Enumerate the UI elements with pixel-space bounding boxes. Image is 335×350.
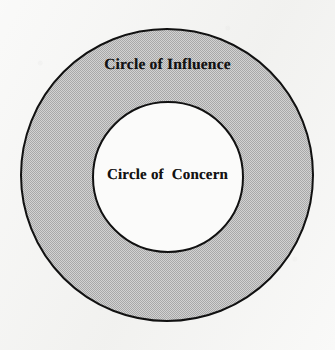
circle-of-concern-label: Circle of Concern [0, 166, 335, 184]
circle-of-influence-label: Circle of Influence [0, 56, 335, 74]
diagram-canvas: Circle of Influence Circle of Concern [0, 0, 335, 350]
